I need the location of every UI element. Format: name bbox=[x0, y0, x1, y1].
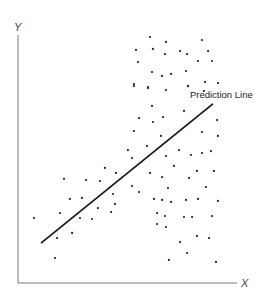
data-point bbox=[137, 61, 139, 63]
data-point bbox=[85, 179, 87, 181]
data-point bbox=[81, 197, 83, 199]
data-point bbox=[161, 75, 163, 77]
data-point bbox=[131, 157, 133, 159]
data-point bbox=[197, 60, 199, 62]
data-point bbox=[208, 237, 210, 239]
data-point bbox=[160, 135, 162, 137]
data-point bbox=[133, 130, 135, 132]
data-point bbox=[185, 70, 187, 72]
data-point bbox=[170, 201, 172, 203]
prediction-line bbox=[41, 104, 213, 243]
data-point bbox=[217, 135, 219, 137]
data-point bbox=[110, 211, 112, 213]
scatter-chart: Y X Prediction Line bbox=[0, 0, 266, 297]
data-point bbox=[165, 89, 167, 91]
data-point bbox=[213, 170, 215, 172]
data-point bbox=[147, 87, 149, 89]
data-point bbox=[162, 116, 164, 118]
data-point bbox=[186, 53, 188, 55]
data-point bbox=[33, 217, 35, 219]
data-point bbox=[63, 178, 65, 180]
data-point bbox=[138, 117, 140, 119]
data-point bbox=[201, 131, 203, 133]
x-axis-label: X bbox=[240, 277, 249, 289]
data-point bbox=[131, 185, 133, 187]
data-point bbox=[217, 200, 219, 202]
data-point bbox=[197, 198, 199, 200]
data-point bbox=[201, 152, 203, 154]
data-point bbox=[91, 218, 93, 220]
data-point bbox=[210, 150, 212, 152]
data-point bbox=[152, 48, 154, 50]
data-point bbox=[178, 149, 180, 151]
data-point bbox=[56, 237, 58, 239]
axes: Y X bbox=[14, 21, 249, 289]
data-point bbox=[164, 215, 166, 217]
data-point bbox=[165, 41, 167, 43]
data-point bbox=[156, 212, 158, 214]
data-point bbox=[188, 177, 190, 179]
data-point bbox=[133, 83, 135, 85]
data-point bbox=[190, 154, 192, 156]
data-point bbox=[151, 71, 153, 73]
data-point bbox=[114, 203, 116, 205]
data-point bbox=[165, 155, 167, 157]
data-point bbox=[152, 121, 154, 123]
data-point bbox=[115, 172, 117, 174]
data-point bbox=[211, 60, 213, 62]
data-point bbox=[165, 226, 167, 228]
data-point bbox=[127, 149, 129, 151]
data-point bbox=[205, 186, 207, 188]
data-point bbox=[207, 50, 209, 52]
data-point bbox=[151, 105, 153, 107]
data-point bbox=[179, 241, 181, 243]
data-point bbox=[191, 216, 193, 218]
data-point bbox=[69, 198, 71, 200]
data-point bbox=[112, 193, 114, 195]
data-point bbox=[216, 119, 218, 121]
data-point bbox=[217, 82, 219, 84]
data-point bbox=[183, 110, 185, 112]
data-point bbox=[99, 180, 101, 182]
prediction-line-label: Prediction Line bbox=[190, 89, 253, 100]
data-point bbox=[59, 212, 61, 214]
data-point bbox=[164, 53, 166, 55]
data-point bbox=[156, 223, 158, 225]
data-point bbox=[201, 39, 203, 41]
data-point bbox=[79, 217, 81, 219]
data-point bbox=[161, 199, 163, 201]
data-point bbox=[133, 85, 135, 87]
data-point bbox=[104, 167, 106, 169]
data-point bbox=[185, 199, 187, 201]
data-point bbox=[167, 187, 169, 189]
data-point bbox=[135, 49, 137, 51]
data-point bbox=[168, 259, 170, 261]
data-point bbox=[196, 170, 198, 172]
data-point bbox=[149, 36, 151, 38]
data-point bbox=[170, 73, 172, 75]
data-point bbox=[204, 81, 206, 83]
data-points bbox=[33, 36, 219, 263]
data-point bbox=[215, 261, 217, 263]
data-point bbox=[54, 257, 56, 259]
y-axis-label: Y bbox=[14, 21, 22, 33]
data-point bbox=[186, 252, 188, 254]
data-point bbox=[153, 198, 155, 200]
data-point bbox=[211, 215, 213, 217]
data-point bbox=[138, 191, 140, 193]
data-point bbox=[196, 235, 198, 237]
data-point bbox=[183, 216, 185, 218]
data-point bbox=[146, 145, 148, 147]
data-point bbox=[71, 232, 73, 234]
data-point bbox=[161, 176, 163, 178]
data-point bbox=[149, 172, 151, 174]
data-point bbox=[179, 50, 181, 52]
data-point bbox=[173, 165, 175, 167]
data-point bbox=[97, 207, 99, 209]
data-point bbox=[187, 85, 189, 87]
